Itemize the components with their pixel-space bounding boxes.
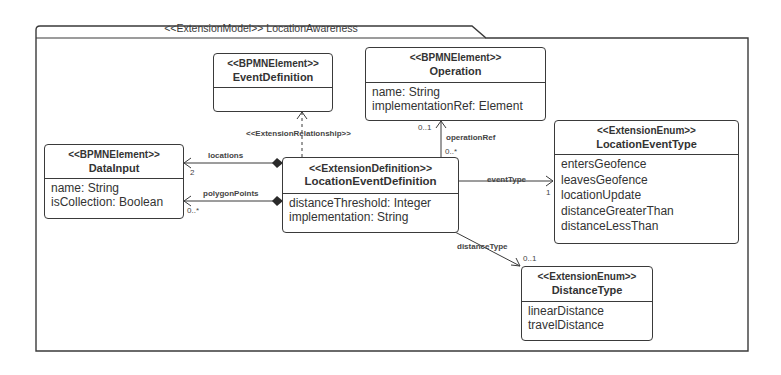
class-name: DataInput bbox=[45, 161, 183, 175]
attribute: implementation: String bbox=[289, 210, 452, 224]
class-header: <<ExtensionEnum>> LocationEventType bbox=[555, 121, 738, 155]
stereotype: <<ExtensionEnum>> bbox=[522, 271, 652, 283]
class-event-definition[interactable]: <<BPMNElement>> EventDefinition bbox=[213, 53, 333, 112]
stereotype: <<ExtensionEnum>> bbox=[555, 125, 738, 137]
attribute: name: String bbox=[372, 85, 539, 99]
package-title: <<ExtensionModel>> LocationAwareness bbox=[36, 22, 486, 34]
event-type-multiplicity: 1 bbox=[546, 188, 550, 197]
class-attributes: name: String implementationRef: Element bbox=[366, 83, 545, 115]
enum-literal: leavesGeofence bbox=[561, 173, 732, 189]
stereotype: <<BPMNElement>> bbox=[366, 52, 545, 64]
enum-literal: linearDistance bbox=[528, 304, 646, 318]
class-name: LocationEventType bbox=[555, 137, 738, 151]
class-attributes bbox=[214, 88, 332, 92]
enum-literals: entersGeofence leavesGeofence locationUp… bbox=[555, 155, 738, 237]
distance-type-label: distanceType bbox=[457, 242, 508, 251]
stereotype: <<BPMNElement>> bbox=[214, 58, 332, 70]
class-name: LocationEventDefinition bbox=[283, 174, 458, 188]
attribute: isCollection: Boolean bbox=[51, 195, 177, 209]
class-name: Operation bbox=[366, 64, 545, 78]
stereotype: <<ExtensionDefinition>> bbox=[283, 162, 458, 174]
event-type-label: eventType bbox=[487, 175, 526, 184]
attribute: distanceThreshold: Integer bbox=[289, 196, 452, 210]
attribute: implementationRef: Element bbox=[372, 99, 539, 113]
class-data-input[interactable]: <<BPMNElement>> DataInput name: String i… bbox=[44, 144, 184, 219]
class-attributes: name: String isCollection: Boolean bbox=[45, 179, 183, 211]
class-operation[interactable]: <<BPMNElement>> Operation name: String i… bbox=[365, 47, 546, 121]
operation-ref-label: operationRef bbox=[446, 133, 495, 142]
distance-type-multiplicity: 0..1 bbox=[523, 254, 536, 263]
class-header: <<ExtensionEnum>> DistanceType bbox=[522, 267, 652, 302]
stereotype: <<BPMNElement>> bbox=[45, 149, 183, 161]
class-name: EventDefinition bbox=[214, 70, 332, 84]
enum-literal: locationUpdate bbox=[561, 188, 732, 204]
enum-literal: entersGeofence bbox=[561, 157, 732, 173]
enum-literals: linearDistance travelDistance bbox=[522, 302, 652, 334]
locations-label: locations bbox=[208, 151, 243, 160]
class-location-event-type[interactable]: <<ExtensionEnum>> LocationEventType ente… bbox=[554, 120, 739, 244]
enum-literal: travelDistance bbox=[528, 318, 646, 332]
enum-literal: distanceGreaterThan bbox=[561, 204, 732, 220]
operation-ref-source-multiplicity: 0..* bbox=[445, 147, 457, 156]
class-header: <<ExtensionDefinition>> LocationEventDef… bbox=[283, 158, 458, 194]
operation-ref-target-multiplicity: 0..1 bbox=[418, 123, 431, 132]
class-header: <<BPMNElement>> EventDefinition bbox=[214, 54, 332, 88]
enum-literal: distanceLessThan bbox=[561, 219, 732, 235]
class-name: DistanceType bbox=[522, 283, 652, 297]
class-location-event-definition[interactable]: <<ExtensionDefinition>> LocationEventDef… bbox=[282, 157, 459, 233]
class-attributes: distanceThreshold: Integer implementatio… bbox=[283, 194, 458, 226]
class-header: <<BPMNElement>> DataInput bbox=[45, 145, 183, 179]
extension-relationship-label: <<ExtensionRelationship>> bbox=[246, 129, 351, 138]
locations-multiplicity: 2 bbox=[190, 168, 194, 177]
attribute: name: String bbox=[51, 181, 177, 195]
class-header: <<BPMNElement>> Operation bbox=[366, 48, 545, 83]
polygon-points-label: polygonPoints bbox=[203, 189, 259, 198]
polygon-points-multiplicity: 0..* bbox=[187, 206, 199, 215]
class-distance-type[interactable]: <<ExtensionEnum>> DistanceType linearDis… bbox=[521, 266, 653, 341]
